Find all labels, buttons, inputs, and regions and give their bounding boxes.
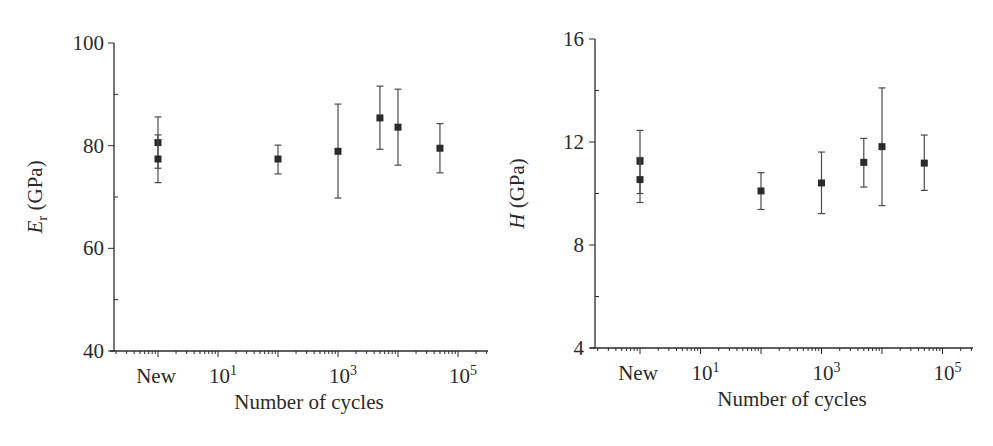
x-tick-label-exponent: 5: [470, 363, 477, 378]
x-tick-label-exponent: 1: [713, 360, 720, 375]
x-tick-label-base: 10: [209, 364, 230, 388]
square-marker: [335, 148, 342, 155]
x-tick-label-exponent: 3: [350, 363, 357, 378]
y-tick-label: 40: [83, 339, 104, 363]
square-marker: [860, 159, 867, 166]
data-point: [395, 89, 402, 165]
x-tick-label: 105: [934, 360, 962, 385]
square-marker: [275, 156, 282, 163]
x-tick-label: 101: [692, 360, 720, 385]
square-marker: [637, 176, 644, 183]
square-marker: [155, 156, 162, 163]
y-tick-label: 60: [83, 236, 104, 260]
y-tick-label: 80: [83, 134, 104, 158]
x-axis-title: Number of cycles: [234, 390, 383, 414]
x-axis-title: Number of cycles: [717, 387, 866, 411]
y-tick-label: 16: [563, 27, 584, 51]
x-tick-label-base: 10: [934, 361, 955, 385]
data-point: [436, 124, 443, 173]
x-tick-label: New: [618, 361, 658, 385]
x-tick-label-exponent: 1: [230, 363, 237, 378]
x-tick-label: 101: [209, 363, 237, 388]
x-tick-label: 103: [813, 360, 841, 385]
data-point: [818, 152, 825, 214]
square-marker: [879, 143, 886, 150]
x-tick-label-exponent: 5: [955, 360, 962, 375]
x-tick-label: 103: [329, 363, 357, 388]
x-tick-label-base: 10: [449, 364, 470, 388]
data-point: [335, 104, 342, 198]
y-axis-title-unit: (GPa): [23, 160, 47, 215]
square-marker: [436, 145, 443, 152]
y-tick-label: 100: [73, 31, 105, 55]
x-tick-label-base: 10: [813, 361, 834, 385]
y-tick-label: 8: [574, 233, 585, 257]
data-point: [860, 138, 867, 187]
y-axis-title: Er (GPa): [23, 160, 50, 234]
data-point: [879, 88, 886, 206]
x-tick-label-base: New: [618, 361, 658, 385]
square-marker: [395, 124, 402, 131]
y-tick-label: 12: [563, 130, 584, 154]
square-marker: [376, 114, 383, 121]
x-tick-label: New: [136, 364, 176, 388]
x-tick-label-base: 10: [329, 364, 350, 388]
data-point: [921, 135, 928, 190]
x-tick-label: 105: [449, 363, 477, 388]
figure: 406080100New101103105Number of cyclesEr …: [0, 0, 993, 446]
y-axis-title: H (GPa): [505, 158, 529, 230]
square-marker: [921, 160, 928, 167]
square-marker: [758, 187, 765, 194]
data-point: [376, 86, 383, 149]
data-point: [275, 145, 282, 174]
y-tick-label: 4: [574, 336, 585, 360]
data-point: [758, 173, 765, 210]
chart-modulus: 406080100New101103105Number of cyclesEr …: [23, 31, 488, 414]
chart-hardness: 481216New101103105Number of cyclesH (GPa…: [505, 27, 973, 411]
x-tick-label-base: New: [136, 364, 176, 388]
square-marker: [818, 179, 825, 186]
y-axis-title-symbol: E: [23, 221, 47, 235]
x-tick-label-exponent: 3: [834, 360, 841, 375]
y-axis-title-unit: (GPa): [505, 158, 529, 213]
x-tick-label-base: 10: [692, 361, 713, 385]
